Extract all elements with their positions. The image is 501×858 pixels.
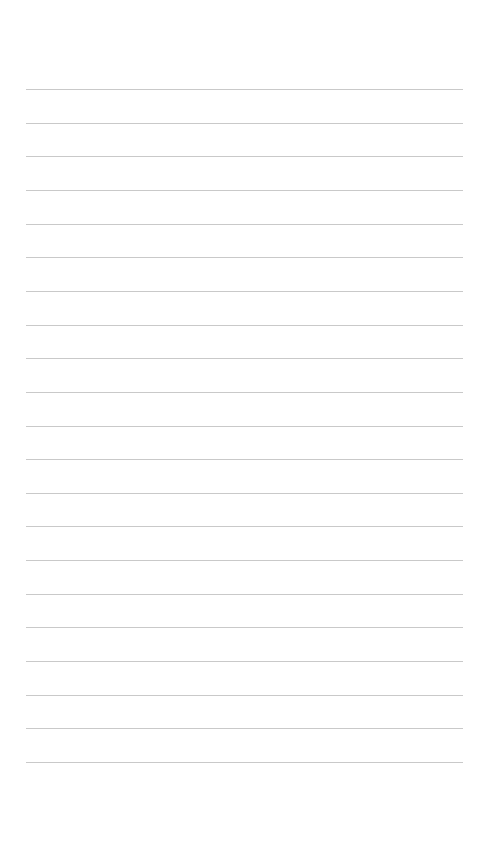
ruled-line xyxy=(26,695,463,696)
ruled-line xyxy=(26,257,463,258)
ruled-line xyxy=(26,224,463,225)
ruled-line xyxy=(26,493,463,494)
ruled-line xyxy=(26,728,463,729)
ruled-line xyxy=(26,190,463,191)
ruled-line xyxy=(26,426,463,427)
ruled-line xyxy=(26,627,463,628)
ruled-line xyxy=(26,762,463,763)
ruled-line xyxy=(26,291,463,292)
ruled-line xyxy=(26,392,463,393)
lined-paper-page xyxy=(0,0,501,858)
ruled-line xyxy=(26,560,463,561)
ruled-line xyxy=(26,526,463,527)
ruled-line xyxy=(26,156,463,157)
ruled-line xyxy=(26,459,463,460)
ruled-line xyxy=(26,89,463,90)
ruled-line xyxy=(26,123,463,124)
ruled-line xyxy=(26,661,463,662)
ruled-line xyxy=(26,594,463,595)
ruled-line xyxy=(26,358,463,359)
ruled-line xyxy=(26,325,463,326)
